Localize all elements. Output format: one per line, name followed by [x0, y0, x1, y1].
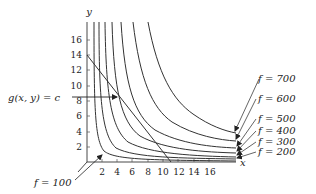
right-level-pointers — [235, 79, 259, 158]
y-tick-label: 12 — [71, 65, 82, 75]
level-curve-f-400 — [112, 22, 236, 153]
y-tick-labels: 2 4 6 8 10 12 14 16 — [71, 35, 83, 152]
y-tick-label: 2 — [76, 142, 82, 152]
level-label-f-100: f = 100 — [33, 177, 72, 188]
level-label-f-300: f = 300 — [257, 136, 296, 147]
level-curves-diagram: 2 4 6 8 10 12 14 16 2 4 6 8 10 12 14 16 … — [0, 0, 316, 194]
level-pointer-f-100 — [75, 155, 102, 180]
level-label-f-700: f = 700 — [257, 73, 296, 84]
right-level-labels: f = 200 f = 300 f = 400 f = 500 f = 600 … — [257, 73, 296, 157]
x-tick-label: 2 — [99, 167, 105, 177]
y-tick-label: 16 — [71, 35, 83, 45]
level-label-f-600: f = 600 — [257, 93, 296, 104]
x-tick-label: 8 — [145, 167, 151, 177]
level-curve-f-500 — [121, 22, 236, 148]
x-tick-labels: 2 4 6 8 10 12 14 16 — [99, 167, 216, 177]
y-tick-label: 4 — [76, 127, 82, 137]
y-tick-label: 10 — [71, 81, 83, 91]
x-tick-label: 4 — [114, 167, 120, 177]
x-tick-label: 16 — [204, 167, 216, 177]
level-curve-f-700 — [148, 22, 236, 133]
x-tick-label: 10 — [157, 167, 169, 177]
level-label-f-500: f = 500 — [257, 113, 296, 124]
y-tick-label: 6 — [76, 111, 82, 121]
y-tick-label: 14 — [71, 50, 83, 60]
x-tick-label: 12 — [173, 167, 184, 177]
constraint-label: g(x, y) = c — [8, 92, 61, 103]
x-tick-label: 6 — [129, 167, 135, 177]
x-tick-label: 14 — [188, 167, 200, 177]
y-axis-label: y — [85, 6, 92, 17]
level-label-f-400: f = 400 — [257, 125, 296, 136]
level-label-f-200: f = 200 — [257, 146, 296, 157]
y-tick-label: 8 — [76, 96, 82, 106]
x-axis-label: x — [240, 157, 246, 168]
level-curve-f-600 — [133, 22, 236, 141]
